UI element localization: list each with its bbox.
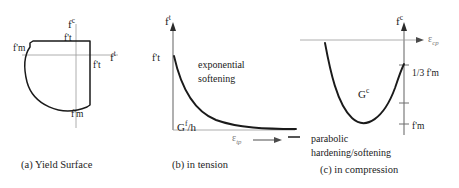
- panel-c-compressive-energy-label: Gc: [358, 87, 369, 100]
- panel-a-label-right-ft: f't: [93, 61, 101, 71]
- panel-a-horizontal-axis-label: ft: [110, 50, 116, 63]
- panel-b-peak-strength-label: f't: [152, 53, 160, 63]
- figure-root: fc ft f'm f'm f't f't (a) Yield Surface …: [0, 0, 459, 188]
- panel-b-caption: (b) in tension: [172, 160, 228, 171]
- panel-c-horizontal-axis-arrow: [416, 37, 424, 43]
- panel-c-tick-upper-label: 1/3 f'm: [412, 69, 439, 79]
- panel-c-tick-lower-label: f'm: [412, 122, 424, 132]
- panel-b-annotation-line2: softening: [198, 74, 235, 84]
- panel-c-strain-label: εcp: [428, 34, 439, 47]
- panel-b-strain-label: εtp: [232, 133, 242, 146]
- panel-b-annotation-line1: exponential: [198, 60, 245, 70]
- panel-a-caption: (a) Yield Surface: [21, 160, 92, 171]
- panel-b-strain-arrow-head: [274, 137, 282, 143]
- panel-b-vertical-axis-label: ft: [165, 14, 171, 27]
- panel-b-vertical-axis-arrow: [170, 22, 176, 31]
- panel-a-label-left-fm: f'm: [13, 44, 25, 54]
- panel-a-label-bottom-fm: f'm: [71, 110, 83, 120]
- panel-a-yield-surface-curve: [25, 41, 90, 111]
- panel-c-vertical-axis-label: fc: [396, 14, 403, 27]
- panel-c-caption: (c) in compression: [320, 165, 398, 176]
- panel-c-parabolic-curve: [325, 43, 404, 123]
- panel-b-fracture-energy-label: Gf/h: [177, 120, 196, 133]
- panel-a-label-top-ft: f't: [64, 34, 72, 44]
- panel-c-annotation-line2: hardening/softening: [311, 148, 391, 158]
- panel-c-annotation-line1: parabolic: [311, 134, 348, 144]
- panel-a-vertical-axis-label: fc: [68, 17, 75, 30]
